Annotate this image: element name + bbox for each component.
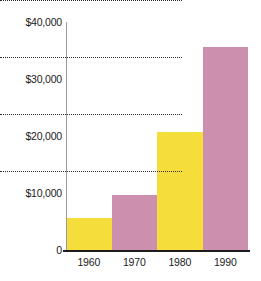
x-tick-label-1970: 1970 xyxy=(112,256,158,268)
y-axis-labels: $40,000 $30,000 $20,000 $10,000 0 xyxy=(0,0,62,281)
x-tick-label-1990: 1990 xyxy=(203,256,249,268)
bar-1980 xyxy=(157,132,203,250)
bar-1990 xyxy=(203,47,249,250)
x-axis-labels: 1960 1970 1980 1990 xyxy=(66,256,248,276)
y-axis-line xyxy=(66,22,67,251)
gridline-40000 xyxy=(0,0,182,1)
y-tick-label-40000: $40,000 xyxy=(4,16,62,28)
y-tick-label-0: 0 xyxy=(4,244,62,256)
y-tick-label-10000: $10,000 xyxy=(4,187,62,199)
gridline-10000 xyxy=(0,171,182,172)
bar-1960 xyxy=(66,218,112,250)
gridline-30000 xyxy=(0,57,182,58)
gridline-20000 xyxy=(0,114,182,115)
y-tick-label-30000: $30,000 xyxy=(4,73,62,85)
y-tick-label-20000: $20,000 xyxy=(4,130,62,142)
x-axis-line xyxy=(63,250,250,252)
x-tick-label-1980: 1980 xyxy=(157,256,203,268)
bar-1970 xyxy=(112,195,158,250)
x-tick-label-1960: 1960 xyxy=(66,256,112,268)
bar-chart-figure: $40,000 $30,000 $20,000 $10,000 0 1960 1… xyxy=(0,0,261,281)
